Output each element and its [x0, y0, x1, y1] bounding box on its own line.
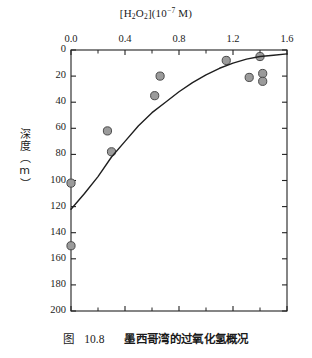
y-tick-label: 40 — [23, 95, 66, 106]
y-tick-label: 80 — [23, 147, 66, 158]
x-tick-label: 0.4 — [105, 33, 145, 44]
x-tick-label: 0.8 — [159, 33, 199, 44]
y-tick-label: 120 — [23, 200, 66, 211]
figure-caption-label: 图 — [63, 333, 74, 345]
y-tick-label: 160 — [23, 252, 66, 263]
chart-data-point — [67, 242, 75, 250]
chart-data-point — [151, 92, 159, 100]
x-tick-label: 1.2 — [213, 33, 253, 44]
chart-data-point — [259, 77, 267, 85]
chart-data-point — [103, 127, 111, 135]
y-tick-label: 140 — [23, 226, 66, 237]
y-tick-label: 20 — [23, 69, 66, 80]
chart-data-point — [156, 72, 164, 80]
figure-container: [H2O2](10−7 M) 深度（m） 0.00.40.81.21.6 020… — [0, 0, 312, 358]
chart-axes-frame — [71, 50, 287, 311]
chart-data-point — [259, 69, 267, 77]
chart-data-point — [67, 179, 75, 187]
y-tick-label: 200 — [23, 304, 66, 315]
chart-plot-area: [H2O2](10−7 M) 深度（m） 0.00.40.81.21.6 020… — [0, 0, 312, 320]
x-tick-label: 1.6 — [267, 33, 307, 44]
figure-caption-number: 10.8 — [84, 333, 104, 345]
y-tick-label: 100 — [23, 174, 66, 185]
chart-data-point — [222, 56, 230, 64]
figure-caption: 图10.8墨西哥湾的过氧化氢概况 — [0, 330, 312, 346]
chart-data-point — [245, 73, 253, 81]
y-tick-label: 0 — [23, 43, 66, 54]
y-tick-label: 180 — [23, 278, 66, 289]
figure-caption-text: 墨西哥湾的过氧化氢概况 — [124, 332, 248, 346]
chart-scatter-series — [67, 52, 267, 249]
y-tick-label: 60 — [23, 121, 66, 132]
